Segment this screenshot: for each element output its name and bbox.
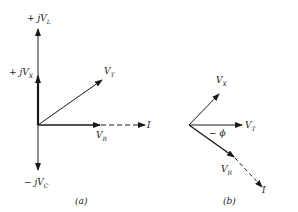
caption-a: (a) bbox=[75, 196, 87, 206]
vt-vector bbox=[38, 80, 102, 125]
label-vr: VR bbox=[96, 131, 107, 142]
label-vt: VT bbox=[104, 67, 115, 78]
label-vx: + jVX bbox=[9, 68, 33, 79]
label-i-b: I bbox=[262, 186, 266, 195]
label-vr-b: VR bbox=[221, 165, 232, 176]
vx-vector-b bbox=[189, 94, 219, 125]
diagram-a bbox=[38, 29, 145, 170]
label-vx-b: VX bbox=[216, 76, 227, 87]
label-phi: − ϕ bbox=[209, 129, 226, 138]
caption-b: (b) bbox=[223, 196, 236, 206]
i-vector-b bbox=[235, 158, 262, 187]
label-vt-b: VT bbox=[245, 121, 256, 132]
label-vl: + jVL bbox=[27, 14, 51, 25]
label-vc: − jVC bbox=[24, 178, 48, 189]
label-i: I bbox=[147, 121, 151, 130]
